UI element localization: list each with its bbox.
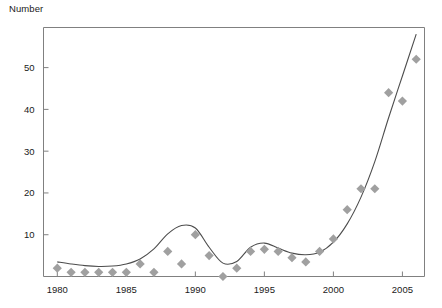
data-point-marker [122, 268, 131, 277]
data-point-marker [94, 268, 103, 277]
data-point-marker [108, 268, 117, 277]
y-tick-label: 40 [24, 104, 35, 115]
scatter-plot-canvas: 1020304050198019851990199520002005 [0, 0, 442, 308]
data-point-marker [218, 272, 227, 281]
x-tick-label: 2000 [323, 284, 344, 295]
data-point-marker [343, 205, 352, 214]
y-tick-label: 30 [24, 146, 35, 157]
x-tick-label: 1995 [254, 284, 275, 295]
y-tick-label: 50 [24, 62, 35, 73]
data-point-marker [315, 247, 324, 256]
data-point-marker [301, 257, 310, 266]
chart-figure: Number 102030405019801985199019952000200… [0, 0, 442, 308]
data-point-marker [356, 184, 365, 193]
data-point-marker [177, 259, 186, 268]
data-point-marker [370, 184, 379, 193]
data-point-marker [149, 268, 158, 277]
x-tick-label: 1990 [185, 284, 206, 295]
axis-ticks [44, 68, 403, 277]
y-tick-label: 20 [24, 187, 35, 198]
data-point-marker [398, 96, 407, 105]
x-tick-label: 1980 [47, 284, 68, 295]
data-point-marker [246, 247, 255, 256]
data-point-marker [67, 268, 76, 277]
data-point-marker [329, 234, 338, 243]
data-point-marker [163, 247, 172, 256]
x-tick-label: 2005 [392, 284, 413, 295]
y-tick-label: 10 [24, 229, 35, 240]
data-point-marker [80, 268, 89, 277]
data-point-marker [232, 264, 241, 273]
data-point-marker [287, 253, 296, 262]
data-points [53, 55, 421, 281]
data-point-marker [274, 247, 283, 256]
data-point-marker [384, 88, 393, 97]
y-axis-title: Number [9, 3, 43, 14]
plot-frame [44, 28, 425, 277]
data-point-marker [53, 264, 62, 273]
data-point-marker [412, 55, 421, 64]
data-point-marker [260, 245, 269, 254]
fitted-curve [57, 34, 416, 266]
x-tick-label: 1985 [116, 284, 137, 295]
trend-line [57, 34, 416, 266]
